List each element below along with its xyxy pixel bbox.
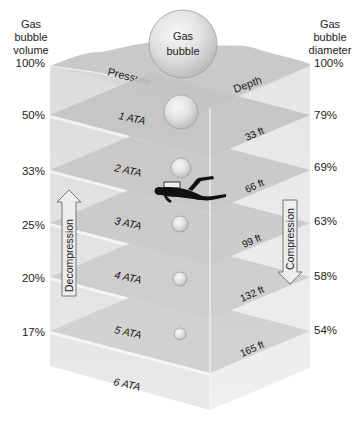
- diameter-value: 58%: [314, 270, 337, 282]
- volume-value: 33%: [22, 165, 45, 177]
- volume-value: 50%: [22, 109, 45, 121]
- volume-value: 17%: [22, 326, 45, 338]
- compression-label: Compression: [284, 208, 296, 270]
- bubble-label-line2: bubble: [166, 45, 199, 57]
- bubble-5-ata: [174, 328, 186, 340]
- diameter-value: 79%: [314, 109, 337, 121]
- diameter-axis: Gas bubble diameter 100% 79% 69% 63% 58%…: [309, 18, 352, 336]
- diameter-title-line3: diameter: [309, 44, 352, 56]
- volume-title-line2: bubble: [14, 31, 47, 43]
- bubble-3-ata: [172, 216, 188, 232]
- volume-title-line1: Gas: [21, 18, 42, 30]
- diameter-title-line1: Gas: [320, 18, 341, 30]
- diameter-value: 69%: [314, 161, 337, 173]
- volume-title-line3: volume: [13, 44, 48, 56]
- bubble-1-ata: [164, 95, 198, 129]
- bubble-surface: [149, 10, 217, 78]
- diameter-title-line2: bubble: [313, 31, 346, 43]
- diameter-value: 63%: [314, 215, 337, 227]
- bubble-2-ata: [171, 158, 191, 178]
- volume-value: 25%: [22, 219, 45, 231]
- volume-value: 20%: [22, 272, 45, 284]
- diameter-value: 54%: [314, 324, 337, 336]
- diving-pressure-diagram: Pressure Depth 1 ATA 33 ft 2 ATA 66 ft 3…: [0, 0, 359, 446]
- decompression-label: Decompression: [63, 219, 75, 292]
- bubble-4-ata: [173, 272, 187, 286]
- volume-value: 100%: [16, 57, 45, 69]
- diameter-value: 100%: [314, 57, 343, 69]
- bubble-label-line1: Gas: [173, 30, 194, 42]
- volume-axis: Gas bubble volume 100% 50% 33% 25% 20% 1…: [13, 18, 48, 338]
